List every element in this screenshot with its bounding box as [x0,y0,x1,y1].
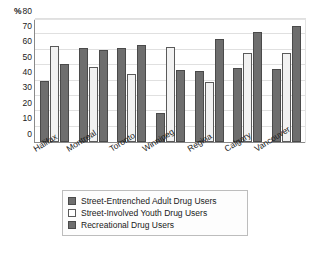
bar [99,50,108,142]
bar-group [151,19,190,142]
y-axis-tick-label: 0 [27,129,32,138]
bar [176,70,185,142]
bar-group [229,19,268,142]
x-axis-label-cell: Vancouver [267,145,306,187]
bar [60,64,69,142]
bar-chart-figure: % 01020304050607080 HalifaxMontrealToron… [0,0,314,255]
bar [195,71,204,142]
y-axis-tick-label: 10 [23,114,32,123]
x-axis-label-cell: Halifax [34,145,73,187]
legend-item: Street-Entrenched Adult Drug Users [68,195,241,207]
chart-legend: Street-Entrenched Adult Drug UsersStreet… [62,190,248,236]
bar-group [190,19,229,142]
bar [233,68,242,142]
bar [137,45,146,142]
bar [117,48,126,142]
legend-label: Recreational Drug Users [81,220,174,230]
legend-swatch [68,221,76,229]
y-axis-tick-label: 80 [23,6,32,15]
legend-swatch [68,197,76,205]
bar [253,32,262,142]
bar-group [74,19,113,142]
bar [215,39,224,142]
y-axis-tick-label: 30 [23,83,32,92]
legend-item: Recreational Drug Users [68,219,241,231]
x-axis-label-cell: Montreal [73,145,112,187]
legend-swatch [68,209,76,217]
legend-label: Street-Entrenched Adult Drug Users [81,196,217,206]
legend-label: Street-Involved Youth Drug Users [81,208,207,218]
y-axis-unit-label: % [14,6,22,16]
bar-groups [35,19,306,142]
bar [243,53,252,142]
bar-group [112,19,151,142]
bar [40,81,49,143]
x-axis-label-cell: Winnipeg [151,145,190,187]
bar [79,48,88,142]
y-axis-tick-label: 20 [23,99,32,108]
y-axis-tick-label: 60 [23,37,32,46]
x-axis-labels: HalifaxMontrealTorontoWinnipegReginaCalg… [34,145,306,187]
x-axis-label-cell: Regina [189,145,228,187]
bar [292,26,301,142]
legend-item: Street-Involved Youth Drug Users [68,207,241,219]
y-axis-tick-label: 50 [23,52,32,61]
y-axis-tick-label: 40 [23,68,32,77]
plot-area: 01020304050607080 [34,19,306,143]
y-axis-tick-label: 70 [23,22,32,31]
bar-group [35,19,74,142]
bar [50,46,59,142]
